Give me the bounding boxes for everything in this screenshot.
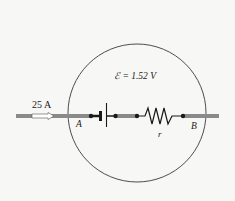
battery-icon xyxy=(89,103,118,127)
point-b-label: B xyxy=(191,121,197,131)
point-a-label: A xyxy=(75,119,82,129)
current-arrow-icon xyxy=(32,113,54,120)
emf-label: ℰ = 1.52 V xyxy=(114,71,157,81)
resistor-icon xyxy=(135,108,185,124)
enclosing-circle xyxy=(68,44,206,182)
current-label: 25 A xyxy=(32,99,52,110)
circuit-diagram: 25 A ℰ = 1.52 V A B r xyxy=(0,0,235,201)
resistor-label: r xyxy=(158,129,162,139)
